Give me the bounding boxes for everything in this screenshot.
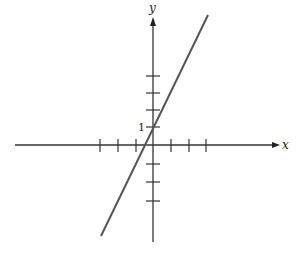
plot-line bbox=[101, 15, 208, 236]
y-axis-arrow-icon bbox=[150, 17, 156, 26]
x-axis-arrow-icon bbox=[272, 142, 280, 148]
y-axis-label: y bbox=[148, 1, 156, 15]
graph: y x 1 bbox=[0, 0, 298, 254]
y-tick-label-1: 1 bbox=[138, 121, 145, 134]
x-axis-label: x bbox=[282, 138, 289, 152]
